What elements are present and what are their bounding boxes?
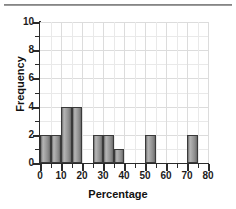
gridline-vertical: [166, 22, 167, 163]
x-axis-title: Percentage: [0, 188, 236, 200]
x-axis-minor-tick: [156, 164, 157, 168]
histogram-bar: [103, 135, 114, 163]
y-axis-tick-label: 4: [10, 102, 34, 112]
y-axis-tick: [33, 107, 40, 109]
gridline-vertical: [156, 22, 157, 163]
gridline-vertical: [198, 22, 199, 163]
x-axis-minor-tick: [198, 164, 199, 168]
y-axis-tick: [33, 50, 40, 52]
x-axis-minor-tick: [51, 164, 52, 168]
x-axis-minor-tick: [114, 164, 115, 168]
plot-area: [40, 22, 208, 163]
histogram-bar: [145, 135, 156, 163]
gridline-vertical: [177, 22, 178, 163]
top-divider-rule: [4, 4, 232, 6]
y-axis-tick-label: 6: [10, 73, 34, 83]
y-axis-tick: [33, 135, 40, 137]
x-axis-minor-tick: [93, 164, 94, 168]
y-axis-tick-label: 2: [10, 130, 34, 140]
gridline-vertical: [135, 22, 136, 163]
histogram-figure: Frequency Percentage 0246810 01020304050…: [0, 0, 236, 209]
histogram-bar: [61, 107, 72, 163]
y-axis-tick-label: 10: [10, 17, 34, 27]
y-axis-tick-label: 8: [10, 45, 34, 55]
histogram-bar: [40, 135, 51, 163]
gridline-vertical: [82, 22, 83, 163]
y-axis-tick: [33, 78, 40, 80]
x-axis-minor-tick: [135, 164, 136, 168]
histogram-bar: [72, 107, 83, 163]
x-axis-minor-tick: [72, 164, 73, 168]
y-axis-tick: [33, 163, 40, 165]
gridline-vertical: [124, 22, 125, 163]
x-axis-tick-label: 80: [196, 171, 220, 181]
y-axis-tick-label: 0: [10, 158, 34, 168]
gridline-vertical: [114, 22, 115, 163]
y-axis-tick: [33, 22, 40, 24]
histogram-bar: [51, 135, 62, 163]
histogram-bar: [114, 149, 125, 163]
x-axis-minor-tick: [177, 164, 178, 168]
histogram-bar: [187, 135, 198, 163]
gridline-vertical: [208, 22, 209, 163]
histogram-bar: [93, 135, 104, 163]
